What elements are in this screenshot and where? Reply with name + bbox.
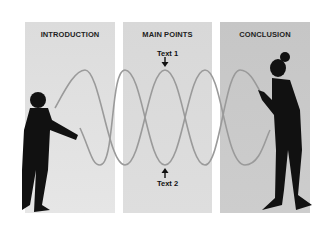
rope-wave [55,70,270,165]
jump-rope-illustration [0,0,330,232]
left-jumper-silhouette [22,92,78,212]
arrow-up-icon [162,168,169,178]
right-jumper-silhouette [258,52,312,210]
arrow-down-icon [162,57,169,67]
